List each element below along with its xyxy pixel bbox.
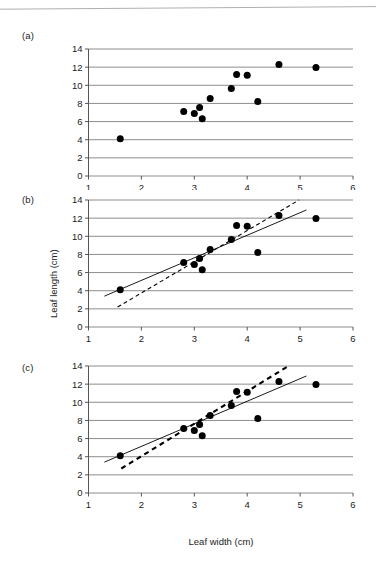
x-tick-label-4: 4 [245,333,250,344]
y-tick-label-4: 4 [77,285,82,296]
y-tick-label-10: 10 [72,397,83,408]
data-point [228,402,235,409]
panel-c-label: (c) [22,362,34,373]
y-tick-label-2: 2 [77,303,82,314]
panel-a-label: (a) [22,30,34,41]
x-tick-label-1: 1 [86,499,91,510]
y-tick-label-12: 12 [72,379,83,390]
x-tick-label-2: 2 [139,499,144,510]
x-tick-label-3: 3 [192,333,197,344]
data-point [191,427,198,434]
y-axis-label: Leaf length (cm) [48,249,59,318]
panel-a-plot: 02468101214123456 [0,18,376,190]
data-point [199,432,206,439]
x-tick-label-5: 5 [297,333,302,344]
x-tick-label-6: 6 [350,499,355,510]
data-point [180,259,187,266]
data-point [207,246,214,253]
y-tick-label-14: 14 [72,360,83,371]
data-point [275,212,282,219]
data-point [244,223,251,230]
data-point [196,255,203,262]
x-tick-label-3: 3 [192,499,197,510]
data-point [180,108,187,115]
y-tick-label-12: 12 [72,213,83,224]
x-tick-label-2: 2 [139,182,144,190]
data-point [228,85,235,92]
data-point [233,71,240,78]
data-point [254,415,261,422]
data-point [233,222,240,229]
data-point [196,421,203,428]
data-point [117,452,124,459]
x-tick-label-3: 3 [192,182,197,190]
scan-artifact-line [0,6,376,10]
data-point [228,236,235,243]
y-tick-label-14: 14 [72,43,83,54]
data-point [312,64,319,71]
x-tick-label-5: 5 [297,182,302,190]
x-tick-label-1: 1 [86,333,91,344]
y-tick-label-0: 0 [77,487,82,498]
y-tick-label-6: 6 [77,116,82,127]
y-tick-label-2: 2 [77,152,82,163]
fit-line-dashed-fit [121,366,288,469]
data-point [207,95,214,102]
panel-b-label: (b) [22,194,34,205]
y-tick-label-10: 10 [72,80,83,91]
y-tick-label-10: 10 [72,231,83,242]
fit-line-solid-fit [104,376,306,462]
data-point [312,381,319,388]
x-tick-label-5: 5 [297,499,302,510]
x-tick-label-4: 4 [245,499,250,510]
x-tick-label-1: 1 [86,182,91,190]
y-tick-label-4: 4 [77,134,82,145]
data-point [191,261,198,268]
x-axis-label: Leaf width (cm) [88,536,354,547]
data-point [196,104,203,111]
y-tick-label-12: 12 [72,62,83,73]
y-tick-label-8: 8 [77,98,82,109]
x-tick-label-2: 2 [139,333,144,344]
y-tick-label-4: 4 [77,451,82,462]
y-tick-label-0: 0 [77,170,82,181]
fit-line-solid-fit [104,210,306,296]
data-point [117,135,124,142]
panel-c-plot: 02468101214123456 [0,358,376,538]
y-tick-label-8: 8 [77,415,82,426]
data-point [199,115,206,122]
data-point [207,412,214,419]
data-point [254,98,261,105]
data-point [275,61,282,68]
y-tick-label-2: 2 [77,469,82,480]
data-point [275,378,282,385]
figure-leaf-length-vs-width: (a) 02468101214123456 (b) Leaf length (c… [0,0,376,579]
data-point [199,266,206,273]
y-tick-label-8: 8 [77,249,82,260]
data-point [312,215,319,222]
x-tick-label-6: 6 [350,333,355,344]
y-tick-label-6: 6 [77,267,82,278]
panel-b: (b) Leaf length (cm) 02468101214123456 [0,190,376,360]
data-point [254,249,261,256]
data-point [233,388,240,395]
y-tick-label-14: 14 [72,194,83,205]
data-point [244,389,251,396]
x-tick-label-4: 4 [245,182,250,190]
data-point [117,286,124,293]
panel-c: (c) 02468101214123456 Leaf width (cm) [0,358,376,558]
data-point [180,425,187,432]
y-tick-label-6: 6 [77,433,82,444]
y-tick-label-0: 0 [77,321,82,332]
data-point [191,110,198,117]
x-tick-label-6: 6 [350,182,355,190]
data-point [244,72,251,79]
panel-a: (a) 02468101214123456 [0,18,376,190]
